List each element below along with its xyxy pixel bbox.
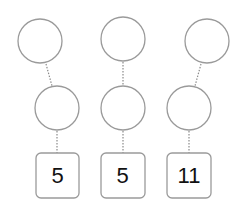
top-node-2	[101, 17, 145, 61]
middle-node-2	[101, 86, 145, 130]
leaf-value-1: 5	[36, 154, 79, 198]
middle-node-1	[35, 86, 79, 130]
leaf-value-3: 11	[167, 154, 211, 198]
leaf-value-2: 5	[101, 154, 144, 198]
middle-node-3	[167, 86, 211, 130]
top-node-3	[185, 19, 229, 63]
edge-top-middle-1	[46, 64, 52, 86]
top-node-1	[18, 19, 62, 63]
edge-top-middle-3	[195, 64, 201, 86]
